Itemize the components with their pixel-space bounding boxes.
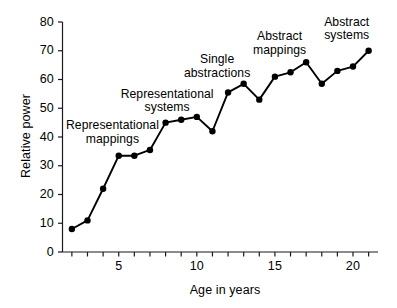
annotation-representational-mappings: Representational mappings (47, 119, 177, 146)
annotation-abstract-systems: Abstract systems (282, 16, 397, 43)
data-point (365, 48, 371, 54)
y-tick-label: 80 (24, 16, 54, 28)
x-tick-label: 5 (99, 260, 139, 272)
y-tick-label: 0 (24, 246, 54, 258)
data-point (147, 147, 153, 153)
data-point (69, 226, 75, 232)
data-point (131, 152, 137, 158)
data-point (100, 186, 106, 192)
data-point (319, 81, 325, 87)
data-point (350, 63, 356, 69)
data-point (334, 68, 340, 74)
data-point (178, 117, 184, 123)
annotation-single-abstractions: Single abstractions (152, 53, 282, 80)
y-tick-label: 70 (24, 44, 54, 56)
x-tick-label: 15 (255, 260, 295, 272)
data-point (287, 69, 293, 75)
y-tick-label: 30 (24, 159, 54, 171)
data-point (303, 59, 309, 65)
data-point (209, 128, 215, 134)
data-point (256, 96, 262, 102)
y-tick-label: 10 (24, 217, 54, 229)
x-tick-label: 10 (177, 260, 217, 272)
data-point (84, 217, 90, 223)
annotation-representational-systems: Representational systems (102, 88, 232, 115)
x-tick-label: 20 (333, 260, 373, 272)
data-point (194, 114, 200, 120)
y-tick-label: 50 (24, 102, 54, 114)
y-tick-label: 20 (24, 188, 54, 200)
y-tick-label: 60 (24, 73, 54, 85)
data-point (116, 152, 122, 158)
chart-figure: Relative power Age in years 010203040506… (0, 0, 397, 308)
data-point (240, 81, 246, 87)
